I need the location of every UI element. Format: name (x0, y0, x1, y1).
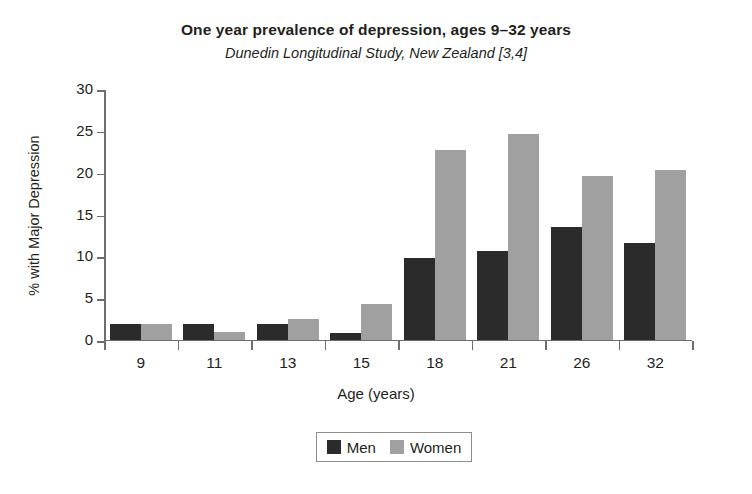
legend-item-men[interactable]: Men (327, 439, 376, 456)
bar-men-21 (477, 251, 508, 340)
x-axis-label: Age (years) (0, 385, 752, 402)
legend-item-women[interactable]: Women (390, 439, 461, 456)
y-tick-label: 15 (76, 206, 93, 223)
bar-group (477, 91, 539, 340)
bar-women-9 (141, 324, 172, 340)
y-tick-mark (97, 257, 104, 259)
y-tick-mark (97, 216, 104, 218)
bar-group (183, 91, 245, 340)
x-axis-ticks: 911131518212632 (104, 341, 692, 381)
chart-figure: One year prevalence of depression, ages … (0, 0, 752, 494)
y-tick-mark (97, 132, 104, 134)
bar-women-21 (508, 134, 539, 340)
y-tick-label: 5 (85, 289, 93, 306)
bar-women-11 (214, 332, 245, 340)
title-block: One year prevalence of depression, ages … (0, 20, 752, 63)
x-tick-mark (178, 341, 180, 350)
legend-label: Women (410, 439, 461, 456)
y-tick-mark (97, 299, 104, 301)
bar-women-32 (655, 170, 686, 340)
bar-group (404, 91, 466, 340)
bar-men-32 (624, 243, 655, 339)
y-tick-label: 10 (76, 247, 93, 264)
plot-area: 051015202530 911131518212632 (104, 90, 692, 341)
y-tick-label: 20 (76, 164, 93, 181)
chart-legend: MenWomen (316, 432, 472, 462)
legend-label: Men (347, 439, 376, 456)
x-tick-mark (398, 341, 400, 350)
x-tick-label: 15 (326, 354, 396, 372)
bar-women-13 (288, 319, 319, 339)
bar-group (257, 91, 319, 340)
chart-title: One year prevalence of depression, ages … (0, 20, 752, 40)
x-tick-mark (619, 341, 621, 350)
legend-swatch-icon (390, 440, 404, 454)
bar-group (551, 91, 613, 340)
bar-group (624, 91, 686, 340)
y-tick-mark (97, 341, 104, 343)
x-tick-label: 26 (547, 354, 617, 372)
bar-men-18 (404, 258, 435, 340)
x-tick-mark (325, 341, 327, 350)
x-tick-label: 13 (253, 354, 323, 372)
x-tick-mark (692, 341, 694, 350)
bar-men-11 (183, 324, 214, 340)
x-tick-mark (104, 341, 106, 350)
bar-group (110, 91, 172, 340)
bar-men-15 (330, 333, 361, 340)
bar-layer (104, 91, 692, 340)
chart-subtitle: Dunedin Longitudinal Study, New Zealand … (0, 43, 752, 63)
y-axis-label: % with Major Depression (26, 90, 44, 341)
x-tick-label: 9 (106, 354, 176, 372)
x-tick-label: 18 (400, 354, 470, 372)
y-tick-mark (97, 174, 104, 176)
bar-women-15 (361, 304, 392, 340)
y-tick-label: 25 (76, 122, 93, 139)
y-tick-mark (97, 90, 104, 92)
x-tick-mark (545, 341, 547, 350)
bar-men-26 (551, 227, 582, 340)
legend-swatch-icon (327, 440, 341, 454)
y-tick-label: 0 (85, 331, 93, 348)
y-tick-label: 30 (76, 80, 93, 97)
x-tick-label: 21 (473, 354, 543, 372)
bar-women-26 (582, 176, 613, 339)
x-tick-mark (251, 341, 253, 350)
bar-men-9 (110, 324, 141, 340)
bar-group (330, 91, 392, 340)
bar-men-13 (257, 324, 288, 339)
bar-women-18 (435, 150, 466, 340)
x-tick-mark (472, 341, 474, 350)
x-tick-label: 11 (179, 354, 249, 372)
x-tick-label: 32 (620, 354, 690, 372)
